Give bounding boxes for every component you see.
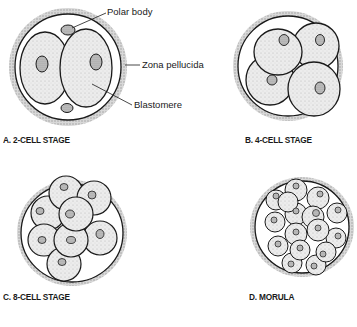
nucleus [316,35,325,46]
blastomere-right [60,29,112,107]
polar-body [61,104,73,113]
nucleus [36,56,48,72]
polar-body [61,25,75,35]
blastomere [254,29,302,75]
caption-a: A. 2-CELL STAGE [3,135,70,145]
panel-a-2-cell [9,8,140,126]
panel-d-morula [250,177,354,277]
embryo-diagram [0,0,357,327]
blastomere [288,62,340,116]
panel-c-8-cell [17,176,127,286]
panel-b-4-cell [233,11,343,121]
nucleus [267,75,277,85]
caption-c: C. 8-CELL STAGE [3,292,70,302]
label-blastomere: Blastomere [134,99,182,110]
nucleus [90,54,102,70]
nucleus [279,35,289,46]
caption-b: B. 4-CELL STAGE [245,135,312,145]
caption-d: D. MORULA [249,292,294,302]
nucleus [315,82,325,94]
label-polar-body: Polar body [107,6,152,17]
label-zona-pellucida: Zona pellucida [142,59,204,70]
